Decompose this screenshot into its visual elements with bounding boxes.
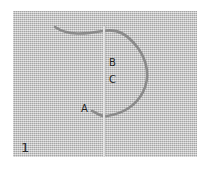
point-label-c: C — [109, 75, 116, 85]
step-number: 1 — [21, 141, 29, 154]
thread — [55, 27, 147, 116]
point-label-a: A — [81, 104, 88, 114]
point-label-b: B — [109, 58, 116, 68]
stitch-illustration — [0, 0, 206, 170]
